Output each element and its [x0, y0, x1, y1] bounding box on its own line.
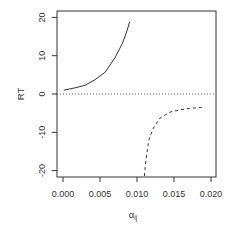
y-tick-label: -20 — [37, 164, 47, 177]
x-tick-label: 0.000 — [52, 189, 75, 199]
x-axis: 0.0000.0050.0100.0150.020 — [52, 177, 223, 199]
y-axis: -20-1001020 — [37, 12, 57, 177]
dashed-curve — [144, 107, 205, 176]
x-tick-label: 0.015 — [163, 189, 186, 199]
x-tick-label: 0.005 — [89, 189, 112, 199]
y-axis-label: RT — [15, 88, 26, 101]
y-tick-label: -10 — [37, 126, 47, 139]
y-tick-label: 0 — [37, 91, 47, 96]
solid-curve — [64, 22, 130, 90]
y-tick-label: 20 — [37, 12, 47, 22]
chart: 0.0000.0050.0100.0150.020 -20-1001020 RT… — [0, 0, 231, 232]
x-tick-label: 0.020 — [200, 189, 223, 199]
y-tick-label: 10 — [37, 51, 47, 61]
x-tick-label: 0.010 — [126, 189, 149, 199]
plot-svg: 0.0000.0050.0100.0150.020 -20-1001020 RT… — [0, 0, 231, 232]
x-axis-label: αij — [129, 209, 137, 222]
